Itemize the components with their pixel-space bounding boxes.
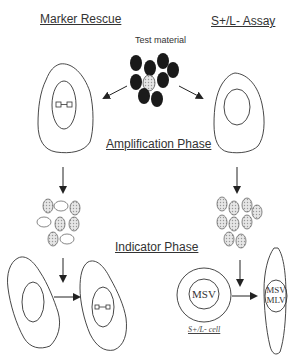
msv-label: MSV xyxy=(192,288,216,300)
marker-gene-icon xyxy=(56,102,61,107)
target-cell-bottom-left xyxy=(7,257,59,348)
rescued-cell-bottom xyxy=(80,261,127,350)
arrow-to-left-cell xyxy=(104,86,127,98)
diagram-canvas: MSV MSV MLV xyxy=(0,0,298,360)
msv-label-2: MSV xyxy=(266,285,286,295)
marker-gene-icon xyxy=(95,305,99,309)
arrow-to-right-cell xyxy=(179,86,202,98)
marker-cell-top-left xyxy=(38,64,93,153)
test-material-cluster xyxy=(130,53,179,107)
particles-right xyxy=(217,197,262,248)
mlv-label: MLV xyxy=(266,295,286,305)
indicator-cell-top-right xyxy=(214,73,264,153)
rescued-particles-left xyxy=(37,199,80,246)
